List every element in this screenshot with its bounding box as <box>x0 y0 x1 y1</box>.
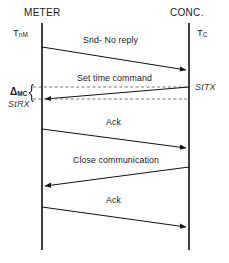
time-label-conc: TC <box>197 28 208 39</box>
message-arrow-close-communication <box>45 167 189 186</box>
message-arrow-set-time-command <box>45 87 189 99</box>
message-label-close-communication: Close communication <box>73 156 159 165</box>
message-label-snd-no-reply: Snd- No reply <box>83 36 138 45</box>
time-label-meter: TnM <box>13 28 28 39</box>
message-label-ack-1: Ack <box>106 118 121 127</box>
actor-label-meter: METER <box>24 8 61 18</box>
sequence-diagram: METER CONC. TnM TC Snd- No reply Set tim… <box>0 0 229 263</box>
message-label-set-time-command: Set time command <box>77 74 152 83</box>
actor-label-conc: CONC. <box>170 8 204 18</box>
interval-label-delta-mc: ΔMC <box>10 87 27 98</box>
time-label-conc-subscript: C <box>203 31 208 38</box>
message-arrow-ack-1 <box>42 129 186 148</box>
message-label-ack-2: Ack <box>106 196 121 205</box>
message-arrow-snd-no-reply <box>42 47 186 70</box>
interval-label-delta-subscript: MC <box>17 90 27 97</box>
timestamp-label-st-tx: StTX <box>195 83 216 92</box>
time-label-meter-subscript: nM <box>19 31 28 38</box>
timestamp-label-st-rx: StRX <box>8 100 30 109</box>
message-arrow-ack-2 <box>42 207 186 227</box>
